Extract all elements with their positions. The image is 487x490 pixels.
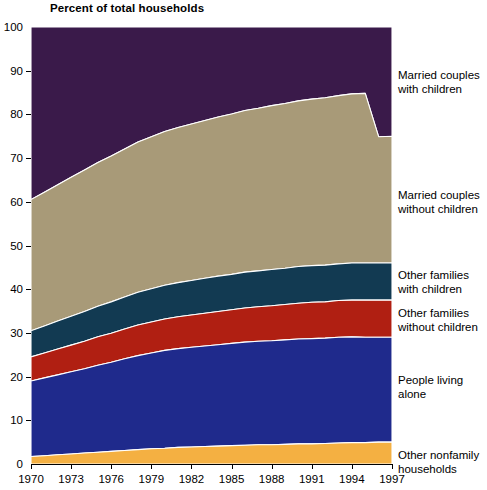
legend-entry: Other familieswith children xyxy=(398,268,487,296)
plot-svg xyxy=(31,27,392,464)
legend-entry: People livingalone xyxy=(398,373,487,401)
legend-label-line1: Married couples xyxy=(398,188,487,202)
x-tick-mark xyxy=(272,464,273,469)
x-tick-mark xyxy=(151,464,152,469)
plot-area xyxy=(31,27,392,464)
stacked-area-chart: Percent of total households 100908070605… xyxy=(0,0,487,490)
legend-entry: Married coupleswithout children xyxy=(398,188,487,216)
x-tick-label: 1985 xyxy=(219,473,245,485)
legend-label-line2: with children xyxy=(398,282,487,296)
x-tick-label: 1991 xyxy=(299,473,325,485)
x-tick-mark xyxy=(71,464,72,469)
y-tick-label: 70 xyxy=(10,152,23,164)
y-tick-label: 80 xyxy=(10,108,23,120)
x-tick-mark xyxy=(191,464,192,469)
legend-label-line2: without children xyxy=(398,320,487,334)
page-title: Percent of total households xyxy=(50,2,204,14)
x-tick-mark xyxy=(232,464,233,469)
x-tick-label: 1973 xyxy=(58,473,84,485)
x-tick-mark xyxy=(392,464,393,469)
y-axis: 1009080706050403020100 xyxy=(0,0,31,490)
x-tick-label: 1979 xyxy=(139,473,165,485)
y-tick-label: 40 xyxy=(10,283,23,295)
y-tick-label: 50 xyxy=(10,240,23,252)
legend-label-line1: Other families xyxy=(398,306,487,320)
legend-entry: Married coupleswith children xyxy=(398,68,487,96)
legend-label-line2: without children xyxy=(398,202,487,216)
x-tick-label: 1970 xyxy=(18,473,44,485)
legend-label-line2: alone xyxy=(398,387,487,401)
legend-label-line1: Other nonfamily xyxy=(398,448,487,462)
legend-label-line2: with children xyxy=(398,82,487,96)
y-tick-label: 100 xyxy=(4,21,23,33)
x-tick-label: 1994 xyxy=(339,473,365,485)
legend-label-line1: People living xyxy=(398,373,487,387)
y-tick-label: 60 xyxy=(10,196,23,208)
x-tick-label: 1988 xyxy=(259,473,285,485)
legend-entry: Other familieswithout children xyxy=(398,306,487,334)
y-tick-label: 30 xyxy=(10,327,23,339)
y-tick-label: 10 xyxy=(10,414,23,426)
y-tick-label: 20 xyxy=(10,371,23,383)
legend-label-line2: households xyxy=(398,462,487,476)
x-tick-mark xyxy=(111,464,112,469)
legend-label-line1: Other families xyxy=(398,268,487,282)
x-tick-label: 1982 xyxy=(179,473,205,485)
y-tick-label: 90 xyxy=(10,65,23,77)
legend-label-line1: Married couples xyxy=(398,68,487,82)
chart-legend: Married coupleswith childrenMarried coup… xyxy=(398,0,487,490)
x-tick-mark xyxy=(31,464,32,469)
legend-entry: Other nonfamilyhouseholds xyxy=(398,448,487,476)
x-tick-mark xyxy=(312,464,313,469)
x-tick-mark xyxy=(352,464,353,469)
x-tick-label: 1976 xyxy=(98,473,124,485)
